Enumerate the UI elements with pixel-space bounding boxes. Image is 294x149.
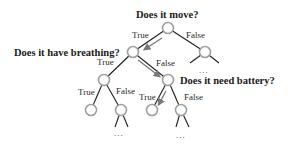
ellipsis: ... bbox=[176, 130, 186, 140]
edge-label-false: False bbox=[184, 92, 203, 102]
question-root: Does it move? bbox=[136, 9, 198, 20]
leaf-node bbox=[116, 105, 127, 116]
edge-label-false: False bbox=[116, 86, 135, 96]
node-root bbox=[163, 23, 174, 34]
decision-tree-diagram: Does it move? Does it have breathing? Do… bbox=[0, 0, 294, 149]
leaf-node bbox=[176, 105, 187, 116]
arrow-icon bbox=[159, 91, 166, 104]
ellipsis: ... bbox=[114, 128, 124, 138]
ellipsis: ... bbox=[199, 65, 209, 75]
edge-label-false: False bbox=[186, 30, 205, 40]
edge-label-false: False bbox=[156, 58, 175, 68]
tree-svg: Does it move? Does it have breathing? Do… bbox=[0, 0, 294, 149]
node-battery bbox=[163, 75, 174, 86]
leaf-node bbox=[147, 105, 158, 116]
node-breathing bbox=[128, 47, 139, 58]
leaf-node bbox=[86, 105, 97, 116]
edge-label-true: True bbox=[97, 57, 114, 67]
edge-label-true: True bbox=[139, 92, 156, 102]
edge-label-true: True bbox=[132, 30, 149, 40]
edge-label-true: True bbox=[78, 87, 95, 97]
question-battery: Does it need battery? bbox=[180, 75, 275, 86]
node-breathing-true bbox=[99, 75, 110, 86]
node-root-false bbox=[200, 47, 211, 58]
